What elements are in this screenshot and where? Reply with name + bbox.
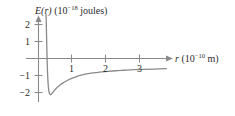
y-axis-unit-prefix: (10 (54, 5, 67, 16)
y-tick-label-minus-1: −1 (14, 71, 30, 81)
x-axis-unit-suffix: m) (205, 53, 219, 64)
y-axis-arrow-icon (35, 16, 41, 23)
y-axis-title: E(r) (10−18 joules) (35, 6, 107, 16)
x-tick-label-2: 2 (100, 64, 112, 74)
x-tick-label-1: 1 (66, 64, 78, 74)
x-axis-arrow-icon (166, 55, 173, 61)
y-tick-label-1: 1 (14, 37, 30, 47)
x-axis-unit-prefix: (10 (181, 53, 194, 64)
energy-potential-chart: E(r) (10−18 joules) r (10−10 m) 2 1 −1 −… (0, 0, 235, 116)
x-axis-title: r (10−10 m) (175, 54, 219, 64)
x-axis-variable: r (175, 53, 179, 64)
energy-curve-path (46, 14, 166, 94)
y-axis-unit-exponent: −18 (68, 4, 78, 11)
y-axis-unit-suffix: joules) (78, 5, 108, 16)
y-axis-argument: (r) (41, 5, 52, 16)
x-tick-label-3: 3 (134, 64, 146, 74)
x-axis-unit-exponent: −10 (195, 52, 205, 59)
y-tick-label-2: 2 (14, 20, 30, 30)
y-tick-label-minus-2: −2 (14, 88, 30, 98)
